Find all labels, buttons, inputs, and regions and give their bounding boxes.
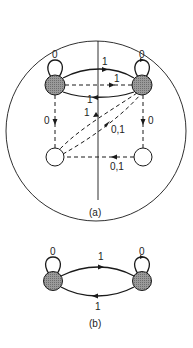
edge-dashed-tr-bl	[60, 93, 137, 149]
label-loop-r: 0	[139, 246, 145, 257]
label-dashed-tr-bl: 1	[84, 107, 90, 118]
label-dashed-bl-tr: 0,1	[111, 124, 125, 135]
label-dashed-tl-bl: 0	[44, 115, 50, 126]
state-node-tr-shaded	[132, 75, 152, 95]
state-node-br-open	[134, 148, 152, 166]
label-dashed-tr-br: 0	[148, 115, 154, 126]
arrow-icon	[92, 294, 98, 299]
arrow-icon	[53, 119, 58, 125]
label-loop-tl: 0	[52, 49, 58, 60]
arrow-icon	[102, 67, 108, 72]
state-node-bl-open	[46, 148, 64, 166]
label-loop-tr: 0	[139, 49, 145, 60]
label-solid-bottom: 1	[87, 94, 93, 105]
self-loop-tr	[135, 60, 150, 77]
edge-solid-bottom-tr-tl	[63, 92, 134, 97]
arrow-icon	[98, 265, 104, 270]
figure-b: 0 0 1 1 (b)	[44, 246, 152, 329]
arrow-icon	[141, 119, 146, 125]
edge-top-l-r	[61, 267, 134, 276]
caption-b: (b)	[89, 318, 101, 329]
label-dashed-br-bl: 0,1	[110, 161, 124, 172]
outer-boundary-circle	[6, 41, 186, 221]
edge-dashed-bl-tr	[63, 95, 140, 154]
state-diagram-figure: 0 0 1 1 1 1 0,1 0 0 0,1 (a) 0 0 1 1 (b)	[0, 0, 193, 348]
figure-a: 0 0 1 1 1 1 0,1 0 0 0,1 (a)	[6, 41, 186, 221]
label-dashed-tl-tr: 1	[114, 73, 120, 84]
label-solid-top: 1	[102, 56, 108, 67]
label-bottom-r-l: 1	[95, 301, 101, 312]
label-loop-l: 0	[50, 246, 56, 257]
state-node-tl-shaded	[45, 75, 65, 95]
edge-solid-top-tl-tr	[63, 69, 134, 78]
state-node-r-shaded	[133, 272, 152, 291]
label-top-l-r: 1	[98, 251, 104, 262]
arrow-icon	[92, 95, 98, 100]
self-loop-tl	[48, 60, 63, 77]
state-node-l-shaded	[44, 272, 63, 291]
arrow-icon	[111, 155, 117, 160]
caption-a: (a)	[89, 207, 101, 218]
